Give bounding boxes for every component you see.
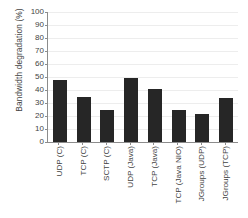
x-axis-tick-label: UDP (C): [54, 146, 65, 214]
x-axis-label-slot: UDP (C): [47, 146, 71, 216]
bar: [77, 97, 91, 142]
x-axis-tick-label: TCP (Java NIO): [173, 146, 184, 214]
x-axis-tick-mark: [106, 142, 107, 145]
bar: [195, 114, 209, 142]
x-axis-tick-label: TCP (Java): [149, 146, 160, 214]
x-axis-label-slot: JGroups (UDP): [190, 146, 214, 216]
x-axis-tick-label-group: UDP (C)TCP (C)SCTP (C)UDP (Java)TCP (Jav…: [47, 146, 237, 216]
bar-series: [48, 12, 238, 142]
x-axis-tick-label: JGroups (TCP): [220, 146, 231, 214]
x-axis-tick-mark: [153, 142, 154, 145]
x-axis-tick-mark: [82, 142, 83, 145]
y-axis-tick-label: 90: [22, 21, 44, 29]
x-axis-tick-label: JGroups (UDP): [196, 146, 207, 214]
x-axis-tick-label: SCTP (C): [101, 146, 112, 214]
y-axis-tick-label: 0: [22, 138, 44, 146]
plot-area: [47, 12, 238, 143]
y-axis-tick-label: 60: [22, 60, 44, 68]
bar: [124, 78, 138, 142]
x-axis-label-slot: SCTP (C): [95, 146, 119, 216]
x-axis-tick-mark: [201, 142, 202, 145]
y-axis-tick-label: 20: [22, 112, 44, 120]
bar-slot: [119, 12, 143, 142]
bar: [100, 110, 114, 143]
x-axis-label-slot: UDP (Java): [118, 146, 142, 216]
x-axis-tick-mark: [177, 142, 178, 145]
bar-chart: Bandwidth degradation (%) 01020304050607…: [0, 0, 248, 218]
x-axis-tick-mark: [58, 142, 59, 145]
bar-slot: [191, 12, 215, 142]
bar-slot: [167, 12, 191, 142]
x-axis-label-slot: JGroups (TCP): [213, 146, 237, 216]
bar: [148, 89, 162, 142]
y-axis-tick-label: 50: [22, 73, 44, 81]
y-axis-tick-label: 30: [22, 99, 44, 107]
bar-slot: [96, 12, 120, 142]
bar-slot: [143, 12, 167, 142]
bar-slot: [72, 12, 96, 142]
x-axis-tick-label: TCP (C): [78, 146, 89, 214]
x-axis-label-slot: TCP (C): [71, 146, 95, 216]
y-axis-tick-label-group: 0102030405060708090100: [22, 12, 44, 142]
y-axis-tick-label: 80: [22, 34, 44, 42]
x-axis-label-slot: TCP (Java): [142, 146, 166, 216]
bar: [219, 98, 233, 142]
bar: [172, 110, 186, 142]
bar-slot: [48, 12, 72, 142]
y-axis-tick-label: 70: [22, 47, 44, 55]
bar-slot: [214, 12, 238, 142]
y-axis-tick-label: 40: [22, 86, 44, 94]
x-axis-tick-mark: [130, 142, 131, 145]
y-axis-tick-label: 100: [22, 8, 44, 16]
x-axis-label-slot: TCP (Java NIO): [166, 146, 190, 216]
x-axis-tick-label: UDP (Java): [125, 146, 136, 214]
y-axis-tick-label: 10: [22, 125, 44, 133]
x-axis-tick-mark: [225, 142, 226, 145]
bar: [53, 80, 67, 142]
